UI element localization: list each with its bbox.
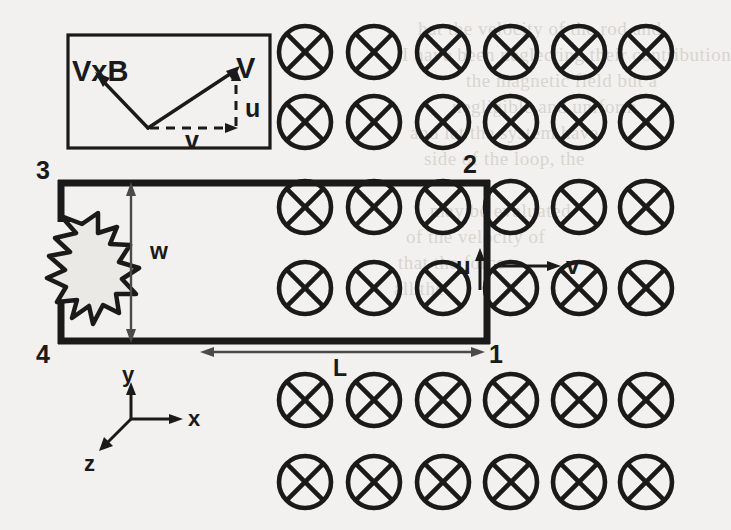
axis-label-z: z [84, 451, 95, 477]
width-label: w [150, 238, 168, 265]
corner-label-2: 2 [463, 150, 477, 179]
corner-label-4: 4 [36, 340, 50, 369]
axis-x-head [169, 414, 183, 424]
inset-V-label: V [236, 52, 255, 85]
corner-label-1: 1 [489, 340, 503, 369]
axis-label-x: x [188, 406, 200, 432]
v-velocity-head [547, 261, 561, 271]
inset-v-label: v [185, 126, 199, 155]
u-velocity-label: u [456, 252, 471, 280]
v-velocity-label: v [566, 252, 579, 280]
inset-u-label: u [245, 94, 260, 123]
inset-vxb-label: VxB [72, 55, 128, 88]
axis-label-y: y [122, 362, 134, 388]
conducting-loop [47, 180, 490, 344]
coordinate-axes [99, 382, 183, 451]
length-label: L [333, 355, 347, 382]
length-dimension-head-right [471, 347, 485, 357]
corner-label-3: 3 [36, 156, 50, 185]
length-dimension-head-left [200, 347, 214, 357]
axis-z-shaft [107, 419, 131, 443]
